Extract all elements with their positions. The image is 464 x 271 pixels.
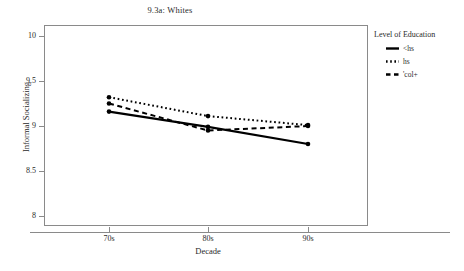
data-point [107, 95, 112, 100]
data-point [306, 142, 311, 147]
legend-item-lt-hs[interactable]: <hs [386, 44, 464, 53]
solid-line-key [386, 44, 400, 53]
legend: Level of Education <hs hs 'col+ [374, 30, 464, 83]
data-point [206, 128, 211, 133]
legend-item-hs[interactable]: hs [386, 57, 464, 66]
dashed-line-key [386, 70, 400, 79]
data-point [206, 114, 211, 119]
series-line-hs [109, 97, 308, 125]
data-point [306, 124, 311, 129]
dotted-line-key [386, 57, 400, 66]
data-point [107, 109, 112, 114]
legend-label-hs: hs [403, 57, 410, 66]
data-point [107, 101, 112, 106]
series-group [107, 95, 311, 146]
legend-item-col-plus[interactable]: 'col+ [386, 70, 464, 79]
chart-figure: 9.3a: Whites 10 9.5 9 8.5 8 Informal Soc… [0, 0, 464, 271]
legend-label-lt-hs: <hs [403, 44, 414, 53]
legend-label-col-plus: 'col+ [403, 70, 418, 79]
legend-title: Level of Education [374, 30, 464, 39]
